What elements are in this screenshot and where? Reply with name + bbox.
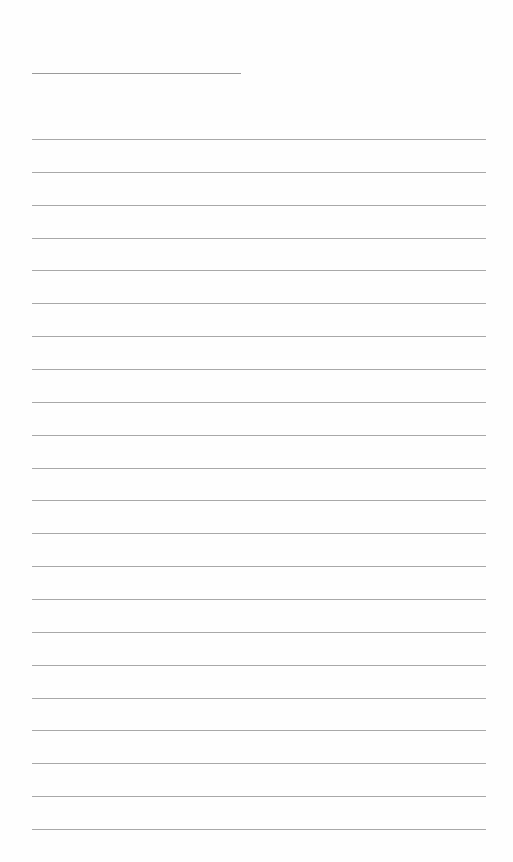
- ruled-line: [32, 270, 486, 271]
- ruled-line: [32, 435, 486, 436]
- ruled-line: [32, 829, 486, 830]
- notebook-page: [0, 0, 513, 862]
- ruled-line: [32, 500, 486, 501]
- ruled-line: [32, 402, 486, 403]
- ruled-line: [32, 303, 486, 304]
- ruled-line: [32, 238, 486, 239]
- ruled-line: [32, 665, 486, 666]
- ruled-line: [32, 533, 486, 534]
- ruled-line: [32, 369, 486, 370]
- ruled-line: [32, 336, 486, 337]
- ruled-line: [32, 632, 486, 633]
- ruled-line: [32, 468, 486, 469]
- ruled-line: [32, 139, 486, 140]
- ruled-line: [32, 796, 486, 797]
- ruled-line: [32, 599, 486, 600]
- ruled-line: [32, 698, 486, 699]
- ruled-line: [32, 730, 486, 731]
- ruled-line: [32, 205, 486, 206]
- ruled-line: [32, 763, 486, 764]
- ruled-line: [32, 172, 486, 173]
- title-line: [32, 73, 241, 74]
- ruled-line: [32, 566, 486, 567]
